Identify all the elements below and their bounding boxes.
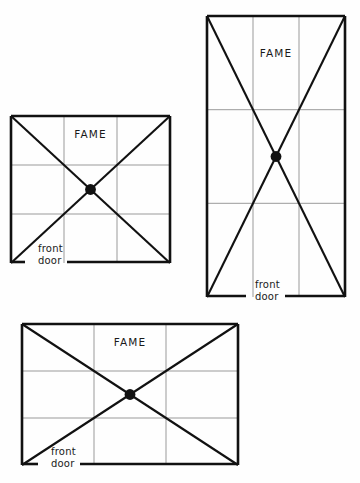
front-door-label-line2: door: [255, 291, 279, 302]
front-door-label-line1: front: [38, 243, 63, 254]
center-dot: [125, 389, 136, 400]
tall-rectangle-plan-svg: FAME front door: [207, 16, 345, 297]
square-plan-diagram: FAME front door: [11, 116, 170, 263]
front-door-label-line1: front: [51, 446, 76, 457]
front-door-label-line1: front: [255, 279, 280, 290]
wide-rectangle-plan-svg: FAME front door: [22, 324, 238, 465]
diagram-canvas: FAME front door: [0, 0, 360, 483]
center-dot: [85, 184, 96, 195]
fame-label: FAME: [114, 336, 146, 348]
front-door-label-line2: door: [38, 255, 62, 266]
front-door-label-line2: door: [51, 458, 75, 469]
fame-label: FAME: [74, 128, 106, 140]
wide-rectangle-plan-diagram: FAME front door: [22, 324, 238, 465]
fame-label: FAME: [260, 47, 292, 59]
tall-rectangle-plan-diagram: FAME front door: [207, 16, 345, 297]
center-dot: [271, 151, 282, 162]
square-plan-svg: FAME front door: [11, 116, 170, 263]
